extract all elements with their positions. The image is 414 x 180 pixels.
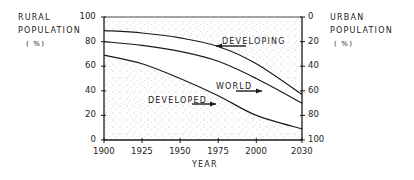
- left-axis-title-2: POPULATION: [18, 26, 81, 35]
- left-axis-unit: ( %): [26, 40, 45, 48]
- left-axis-title-1: RURAL: [18, 13, 51, 22]
- left-y-tick-label: 0: [91, 134, 96, 144]
- label-world: WORLD: [216, 82, 252, 91]
- x-tick-label: 1900: [93, 146, 115, 156]
- right-y-tick-label: 20: [308, 36, 319, 46]
- right-y-tick-label: 80: [308, 109, 319, 119]
- x-tick-label: 1950: [169, 146, 191, 156]
- left-y-tick-label: 60: [85, 60, 96, 70]
- right-y-tick-label: 60: [308, 85, 319, 95]
- left-y-tick-label: 20: [85, 109, 96, 119]
- right-y-tick-label: 0: [308, 11, 313, 21]
- right-axis-unit: ( %): [334, 40, 353, 48]
- x-tick-label: 2030: [291, 146, 313, 156]
- label-developing: DEVELOPING: [222, 37, 286, 46]
- label-developed: DEVELOPED: [148, 96, 207, 105]
- left-y-tick-label: 100: [80, 11, 96, 21]
- x-tick-label: 1975: [207, 146, 229, 156]
- right-y-tick-label: 40: [308, 60, 319, 70]
- right-y-tick-label: 100: [308, 134, 324, 144]
- left-y-tick-label: 40: [85, 85, 96, 95]
- x-tick-label: 2000: [245, 146, 267, 156]
- right-axis-title-2: POPULATION: [330, 26, 393, 35]
- left-y-tick-label: 80: [85, 36, 96, 46]
- x-tick-label: 1925: [131, 146, 153, 156]
- right-axis-title-1: URBAN: [330, 13, 364, 22]
- x-axis-title: YEAR: [192, 160, 218, 169]
